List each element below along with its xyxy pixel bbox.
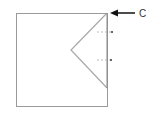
dashed-marker-lower [97, 59, 112, 61]
dashed-marker-upper [97, 31, 113, 33]
folded-flap [71, 13, 107, 88]
paper-square [17, 14, 108, 107]
arrow-icon [110, 10, 135, 17]
fold-diagram [0, 0, 152, 114]
corner-label: C [139, 8, 146, 19]
